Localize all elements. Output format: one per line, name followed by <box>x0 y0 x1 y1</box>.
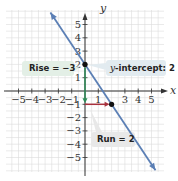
rise-arrowhead <box>83 98 88 103</box>
y-tick-label: −1 <box>66 99 81 110</box>
data-point <box>109 102 114 107</box>
y-tick-label: 1 <box>75 72 81 83</box>
x-tick-label: 5 <box>148 94 154 105</box>
intercept-callout-pointer <box>88 63 106 70</box>
intercept-rest: -intercept: 2 <box>115 63 175 73</box>
x-tick-label: 1 <box>95 94 101 105</box>
y-tick-label: −3 <box>66 125 81 136</box>
y-tick-label: −4 <box>66 139 81 150</box>
y-axis-label: y <box>99 2 107 15</box>
y-tick-label: −2 <box>66 112 81 123</box>
y-tick-label: −5 <box>66 152 81 163</box>
x-axis-arrowhead <box>161 89 168 94</box>
run-label: Run = 2 <box>97 134 135 144</box>
data-point <box>82 62 87 67</box>
x-tick-label: 3 <box>122 94 128 105</box>
run-arrowhead <box>105 102 110 107</box>
y-tick-label: 5 <box>75 19 81 30</box>
x-axis-label: x <box>170 84 177 97</box>
slope-chart: −5−4−3−2−1134554321−1−2−3−4−5 y x Rise =… <box>0 0 178 181</box>
y-axis-arrowhead <box>83 13 88 20</box>
y-tick-label: 4 <box>75 32 81 43</box>
x-tick-label: 4 <box>135 94 141 105</box>
rise-label: Rise = −3 <box>29 63 75 73</box>
intercept-label: y-intercept: 2 <box>109 63 175 73</box>
